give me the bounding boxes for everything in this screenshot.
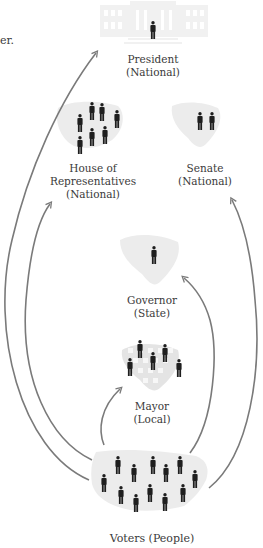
governor-scope: (State) [112, 307, 192, 320]
house-scope: (National) [38, 188, 148, 201]
mayor-label: Mayor (Local) [112, 400, 192, 426]
house-title-line2: Representatives [38, 175, 148, 188]
diagram-canvas [0, 0, 263, 548]
governor-label: Governor (State) [112, 294, 192, 320]
arrow-to-house [25, 204, 92, 460]
president-title: President [110, 53, 196, 66]
president-label: President (National) [110, 53, 196, 79]
senate-scope: (National) [165, 175, 245, 188]
voters-label: Voters (People) [92, 532, 212, 545]
mayor-scope: (Local) [112, 413, 192, 426]
arrow-to-senate [209, 200, 257, 488]
senate-label: Senate (National) [165, 162, 245, 188]
truncated-text-fragment: er. [0, 34, 14, 47]
voters-title: Voters (People) [92, 532, 212, 545]
president-scope: (National) [110, 66, 196, 79]
state-map-icon [120, 235, 179, 285]
house-label: House of Representatives (National) [38, 162, 148, 201]
mayor-title: Mayor [112, 400, 192, 413]
senate-title: Senate [165, 162, 245, 175]
governor-title: Governor [112, 294, 192, 307]
house-title-line1: House of [38, 162, 148, 175]
